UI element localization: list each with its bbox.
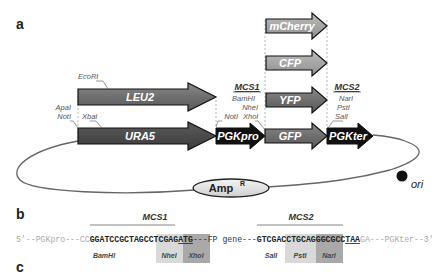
enz-xhoi: XhoI xyxy=(187,252,204,259)
amp-label: Amp xyxy=(209,182,234,194)
amp-resistance: Amp R xyxy=(193,179,269,197)
pgkter-arrow: PGKter xyxy=(327,123,373,149)
seq-mcs1-title: MCS1 xyxy=(142,212,167,222)
mcherry-arrow: mCherry xyxy=(266,13,327,39)
yfp-arrow: YFP xyxy=(266,87,327,113)
mcs2-title: MCS2 xyxy=(334,82,359,92)
site-sali: SalI xyxy=(335,112,348,121)
seq-nhei: GCTAGC xyxy=(119,235,149,244)
site-noti-mid: NotI xyxy=(224,112,238,121)
sequence-line: 5'--PGKpro---CCGGATCCGCTAGCCTCGAGATG---F… xyxy=(16,235,434,244)
site-apai: ApaI xyxy=(55,103,71,112)
panel-label-a: a xyxy=(16,16,24,32)
site-noti-left: NotI xyxy=(57,112,71,121)
seq-xhoi: CTCGAG xyxy=(149,235,179,244)
mcs1-title: MCS1 xyxy=(234,82,259,92)
site-bamhi: BamHI xyxy=(232,94,255,103)
site-psti: PstI xyxy=(337,103,350,112)
site-nari: NarI xyxy=(339,94,353,103)
ura5-label: URA5 xyxy=(125,130,156,142)
seq-mcs2-title: MCS2 xyxy=(288,212,313,222)
guide-lines xyxy=(78,20,327,141)
leu2-label: LEU2 xyxy=(126,91,154,103)
enz-bamhi: BamHI xyxy=(93,252,116,259)
enz-nhei: NheI xyxy=(161,252,177,259)
site-xhoi: XhoI xyxy=(242,112,258,121)
seq-middle: ---FP gene--- xyxy=(193,235,257,244)
backbone-left xyxy=(17,141,195,193)
cfp-label: CFP xyxy=(279,57,302,69)
panel-label-b: b xyxy=(16,206,25,222)
seq-psti: CTGCAG xyxy=(286,235,316,244)
mcherry-label: mCherry xyxy=(269,20,315,32)
amp-superscript: R xyxy=(240,180,245,187)
svg-text:Amp: Amp xyxy=(209,182,234,194)
pgkter-label: PGKter xyxy=(329,130,368,142)
pgkpro-arrow: PGKpro xyxy=(216,123,265,149)
seq-bamhi: GGATCC xyxy=(90,235,120,244)
seq-start-codon: ATG xyxy=(178,235,193,244)
plasmid-figure: a b c Amp R ori LEU2 URA5 PGKpro GFP xyxy=(0,0,444,279)
seq-left-prefix: 5'--PGKpro---CC xyxy=(16,235,90,244)
seq-nari: GGCGCC xyxy=(316,235,346,244)
gfp-label: GFP xyxy=(279,130,302,142)
enz-psti: PstI xyxy=(294,252,308,259)
site-nhei: NheI xyxy=(242,103,258,112)
site-xbai: XbaI xyxy=(81,112,97,121)
yfp-label: YFP xyxy=(279,94,301,106)
ori-dot xyxy=(397,171,408,182)
pgkpro-label: PGKpro xyxy=(217,130,259,142)
cfp-arrow: CFP xyxy=(266,50,327,76)
leu2-arrow: LEU2 xyxy=(78,83,216,111)
panel-label-c: c xyxy=(16,259,24,275)
sequence-panel: MCS1 MCS2 5'--PGKpro---CCGGATCCGCTAGCCTC… xyxy=(16,212,434,263)
gfp-arrow: GFP xyxy=(265,123,327,149)
seq-sali: GTCGAC xyxy=(257,235,287,244)
enz-nari: NarI xyxy=(322,252,337,259)
seq-right-suffix: GA---PGKter--3' xyxy=(360,235,434,244)
ori-label: ori xyxy=(411,178,424,190)
seq-stop-codon: TAA xyxy=(345,235,360,244)
ura5-arrow: URA5 xyxy=(78,122,216,150)
site-ecori: EcoRI xyxy=(78,72,98,81)
enz-sali: SalI xyxy=(265,252,279,259)
